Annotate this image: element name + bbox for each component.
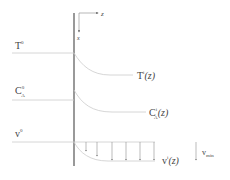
temperature-profile: T0 Ti(z)	[12, 40, 156, 82]
vmin-indicator: vmin	[196, 142, 214, 160]
bulk-temperature-label: T0	[15, 40, 24, 51]
x-axis-label: x	[76, 35, 80, 41]
interface-temperature-label: Ti(z)	[137, 70, 156, 82]
coordinate-axes: z x	[76, 10, 104, 41]
velocity-arrows	[86, 142, 154, 160]
z-axis-label: z	[100, 10, 104, 18]
bulk-velocity-label: v0	[15, 128, 23, 139]
bulk-concentration-label: C0A	[15, 85, 25, 98]
interface-velocity-label: vi(z)	[162, 155, 180, 167]
boundary-layer-diagram: z x T0 Ti(z) C0A CiA(z) v0	[0, 0, 230, 180]
interface-concentration-label: CiA(z)	[149, 107, 169, 120]
concentration-profile: C0A CiA(z)	[12, 85, 169, 120]
vmin-label: vmin	[202, 148, 214, 158]
velocity-profile: v0 vi(z)	[12, 128, 180, 167]
